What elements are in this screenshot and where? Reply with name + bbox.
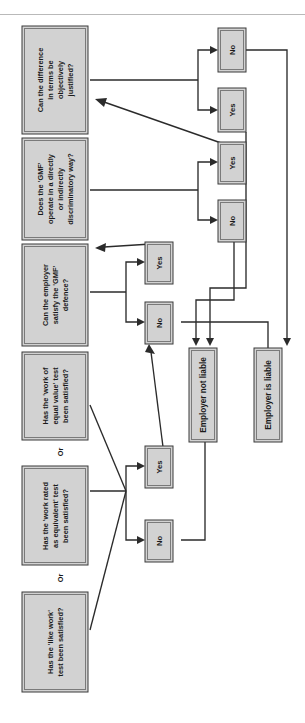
connector-q6no-to-liable [246, 50, 287, 338]
node-text-line: Has the 'work of [41, 367, 50, 424]
connector-q5yes-to-q6 [104, 102, 224, 144]
connector-layer [90, 46, 291, 630]
connector-q6-to-no [198, 50, 210, 80]
arrowhead-bottom-yes [137, 462, 145, 470]
node-text-line: satisfy the 'GMF' [51, 265, 60, 324]
arrowhead-q4-no [137, 318, 145, 326]
decision-label: Yes [155, 256, 164, 269]
decision-label: No [155, 536, 164, 546]
node-q-gmf-defence[interactable]: Can the employer satisfy the 'GMF' defen… [22, 244, 88, 346]
node-q-work-rated-equivalent[interactable]: Has the 'work rated as equivalent' test … [22, 466, 88, 565]
decision-label: No [155, 318, 164, 328]
node-text-line: objectively [56, 60, 65, 99]
connector-q5-to-no [198, 190, 210, 220]
connector-no-to-not-liable [181, 442, 205, 540]
node-rect-q-objectively-justified [22, 26, 88, 134]
node-text-line: as equivalent' test [51, 484, 60, 548]
node-decision-q5-yes[interactable]: Yes [218, 142, 246, 184]
node-text-line: discriminatory way? [66, 153, 75, 225]
connector-yes-to-q4 [151, 352, 163, 447]
node-text-line: Does the 'GMF' [36, 162, 45, 215]
arrowhead-q6-no [210, 46, 218, 54]
connector-q6-to-yes [198, 80, 210, 110]
connector-q5-to-yes [198, 162, 210, 190]
decision-label: Yes [228, 103, 237, 116]
decision-label: No [228, 45, 237, 55]
node-rect-q-like-work [22, 592, 88, 692]
or-text: Or [56, 448, 65, 457]
arrowhead-yes-to-q4 [145, 344, 155, 354]
connector-q1-diagonal [90, 491, 126, 630]
connector-q3-diagonal [90, 405, 126, 491]
arrowhead-q6no-to-liable [283, 338, 291, 346]
node-text-line: equal value' test [51, 367, 60, 425]
node-q-gmf-discriminatory[interactable]: Does the 'GMF' operate in a directly or … [22, 138, 88, 240]
node-text-line: defence? [61, 278, 70, 311]
node-text-line: test been satisfied? [56, 607, 65, 676]
node-text-line: been satisfied? [61, 369, 70, 423]
or-label-1: Or [56, 448, 65, 457]
connector-bottom-to-yes [126, 466, 137, 491]
node-decision-q4-no[interactable]: No [145, 302, 173, 344]
connector-q4-to-yes [126, 262, 137, 292]
connector-q5no-to-not-liable [196, 242, 234, 338]
node-text-line: operate in a directly [46, 153, 55, 224]
node-text-line: or indirectly [56, 167, 65, 210]
flowchart-canvas: Can the difference in terms be objective… [0, 0, 305, 723]
node-rect-q-gmf-discriminatory [22, 138, 88, 240]
arrowhead-q5-no [210, 216, 218, 224]
decision-label: Yes [228, 156, 237, 169]
arrowhead-q5-yes [210, 158, 218, 166]
decision-label: No [228, 216, 237, 226]
arrowhead-q5no-to-not-liable [192, 338, 200, 346]
node-text-line: in terms be [46, 60, 55, 99]
connector-bottom-to-no [126, 491, 137, 540]
node-decision-q5-no[interactable]: No [218, 200, 246, 242]
node-q-work-equal-value[interactable]: Has the 'work of equal value' test been … [22, 352, 88, 440]
node-outcome-not-liable[interactable]: Employer not liable [189, 348, 217, 442]
flowchart-page: Can the difference in terms be objective… [0, 0, 305, 723]
outcome-label: Employer not liable [199, 357, 208, 433]
node-decision-q6-no[interactable]: No [218, 28, 246, 72]
or-text: Or [56, 574, 65, 583]
node-decision-tests-no[interactable]: No [145, 520, 173, 562]
arrowhead-q4yes-to-q5 [95, 243, 106, 252]
decision-label: Yes [155, 460, 164, 473]
arrowhead-q4-yes [137, 258, 145, 266]
node-text-line: Has the 'work rated [41, 482, 50, 550]
node-outcome-liable[interactable]: Employer is liable [254, 348, 282, 442]
node-decision-q4-yes[interactable]: Yes [145, 242, 173, 284]
node-text-line: Can the difference [36, 48, 45, 112]
node-text-line: been satisfied? [61, 489, 70, 543]
node-q-objectively-justified[interactable]: Can the difference in terms be objective… [22, 26, 88, 134]
node-decision-q6-yes[interactable]: Yes [218, 88, 246, 132]
arrowhead-q6-yes [210, 106, 218, 114]
node-text-line: justified? [66, 63, 75, 97]
node-decision-tests-yes[interactable]: Yes [145, 446, 173, 488]
node-text-line: Has the 'like work' [46, 610, 55, 674]
arrowhead-q6yes-to-not-liable [206, 338, 214, 346]
node-q-like-work[interactable]: Has the 'like work' test been satisfied? [22, 592, 88, 692]
connector-q4yes-to-q5 [104, 244, 151, 247]
arrowhead-q5yes-to-q6 [95, 98, 107, 107]
connector-q4-to-no [126, 292, 137, 322]
outcome-label: Employer is liable [264, 360, 273, 430]
arrowhead-bottom-no [137, 536, 145, 544]
or-label-2: Or [56, 574, 65, 583]
node-text-line: Can the employer [41, 264, 50, 326]
